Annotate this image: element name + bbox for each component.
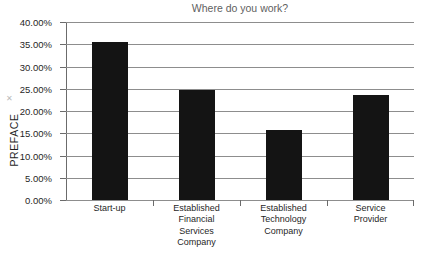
y-axis-tick-label: 35.00%	[20, 39, 52, 50]
y-axis-tick-label: 0.00%	[25, 195, 52, 206]
y-axis-tick-label: 10.00%	[20, 150, 52, 161]
x-axis-category-label: EstablishedFinancialServicesCompany	[153, 203, 240, 249]
x-axis-category-label: ServiceProvider	[327, 203, 414, 226]
x-axis-category-line: Financial	[153, 214, 240, 225]
y-axis-tick-labels: 40.00%35.00%30.00%25.00%20.00%15.00%10.0…	[0, 22, 60, 200]
bar	[92, 42, 128, 200]
x-axis-category-line: Technology	[240, 214, 327, 225]
gridline	[66, 22, 414, 23]
x-axis-category-line: Company	[240, 226, 327, 237]
y-axis-tick-label: 30.00%	[20, 61, 52, 72]
chart-title: Where do you work?	[66, 2, 414, 14]
y-axis-tick-label: 25.00%	[20, 83, 52, 94]
x-axis-category-line: Start-up	[66, 203, 153, 214]
y-axis-tick-label: 5.00%	[25, 172, 52, 183]
x-axis-category-line: Provider	[327, 214, 414, 225]
x-axis-category-line: Established	[240, 203, 327, 214]
x-axis-category-line: Established	[153, 203, 240, 214]
bar	[353, 95, 389, 200]
bar	[179, 90, 215, 200]
x-axis-category-label: EstablishedTechnologyCompany	[240, 203, 327, 237]
x-axis-category-line: Services	[153, 226, 240, 237]
plot-area	[66, 22, 414, 200]
x-axis-category-line: Company	[153, 237, 240, 248]
chart-figure: ✕ PREFACE Where do you work? 40.00%35.00…	[0, 0, 426, 260]
y-axis-tick-label: 15.00%	[20, 128, 52, 139]
x-axis-category-label: Start-up	[66, 203, 153, 214]
y-axis-tick-label: 40.00%	[20, 17, 52, 28]
bar	[266, 130, 302, 200]
x-axis-category-line: Service	[327, 203, 414, 214]
x-axis-category-labels: Start-upEstablishedFinancialServicesComp…	[66, 203, 414, 259]
y-axis-tick-label: 20.00%	[20, 106, 52, 117]
